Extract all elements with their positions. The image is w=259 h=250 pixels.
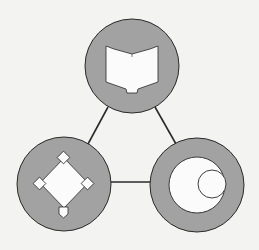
edge-top-bottom-left	[88, 107, 108, 144]
node-book	[85, 19, 179, 113]
edge-top-bottom-right	[155, 107, 176, 144]
node-concentric-circles	[150, 138, 244, 232]
node-baseball-diamond	[17, 137, 111, 231]
inner-small-circle	[198, 170, 226, 198]
triangle-diagram	[0, 0, 259, 250]
